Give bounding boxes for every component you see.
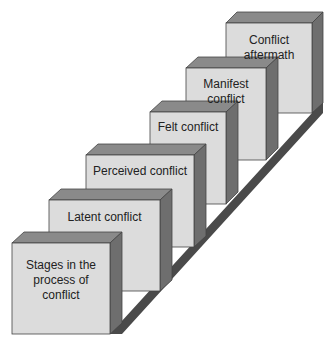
stage-title-line-3: conflict	[12, 288, 110, 303]
stage-label-stages-title: Stages in the process of conflict	[12, 258, 110, 303]
stage-label-conflict-aftermath: Conflict aftermath	[226, 33, 312, 63]
stage-title-line-1: Stages in the	[12, 258, 110, 273]
stage-label-latent-conflict: Latent conflict	[49, 210, 160, 225]
stage-label-felt-conflict: Felt conflict	[150, 120, 226, 135]
stage-label-manifest-conflict: Manifest conflict	[186, 77, 266, 107]
stage-title-line-2: process of	[12, 273, 110, 288]
stage-label-perceived-conflict: Perceived conflict	[86, 164, 194, 179]
